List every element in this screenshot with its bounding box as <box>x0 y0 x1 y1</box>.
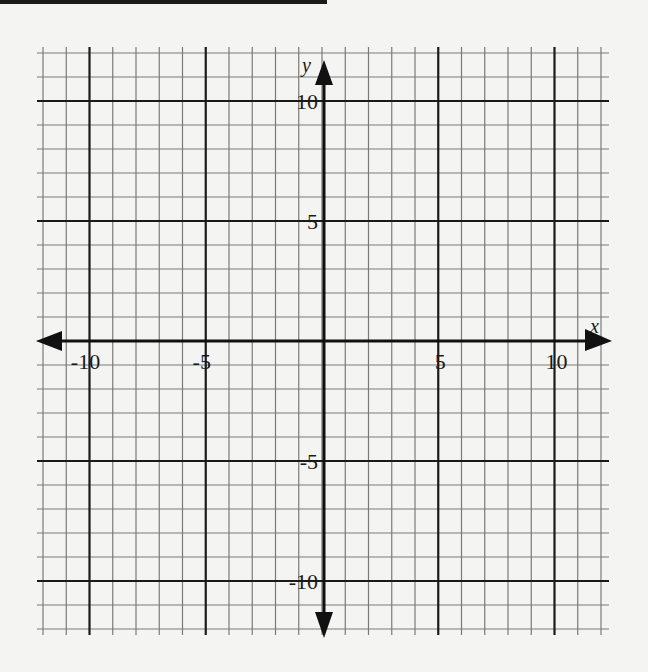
x-tick-label: -10 <box>71 349 100 374</box>
y-axis-up-arrow-icon <box>315 60 333 85</box>
y-tick-label: -5 <box>300 449 318 474</box>
x-axis-left-arrow-icon <box>36 331 62 351</box>
x-tick-label: 10 <box>546 349 568 374</box>
axes <box>36 60 612 638</box>
x-axis-label: x <box>589 315 599 337</box>
y-tick-label: 10 <box>296 89 318 114</box>
y-tick-label: 5 <box>307 209 318 234</box>
x-tick-label: 5 <box>435 349 446 374</box>
y-axis-label: y <box>300 54 311 77</box>
coordinate-plane: -10-5510105-5-10 x y <box>0 0 648 672</box>
y-tick-label: -10 <box>289 569 318 594</box>
y-axis-down-arrow-icon <box>315 612 333 638</box>
x-tick-label: -5 <box>193 349 211 374</box>
